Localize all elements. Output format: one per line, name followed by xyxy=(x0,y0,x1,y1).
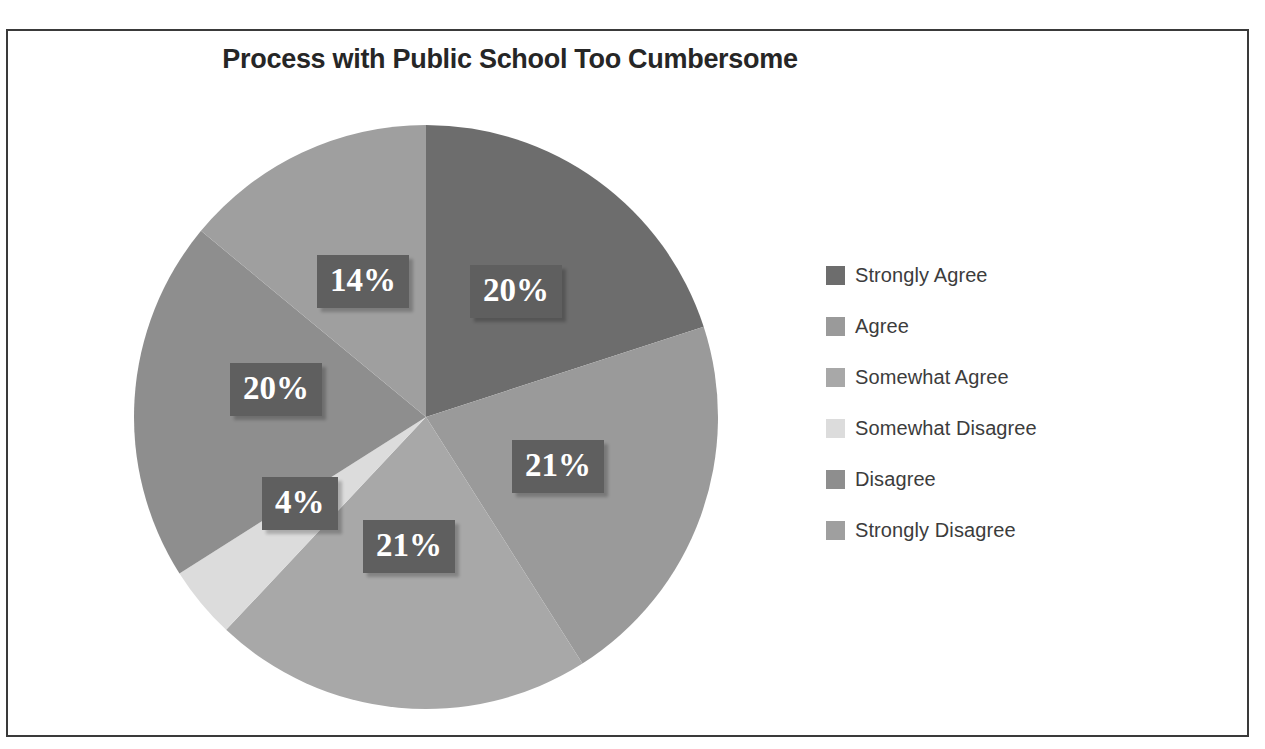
pie-slice-label: 20% xyxy=(230,363,322,416)
legend-swatch-icon xyxy=(826,368,845,387)
pie-slice-label: 20% xyxy=(470,265,562,318)
legend-item[interactable]: Strongly Agree xyxy=(826,263,1106,288)
legend-item-label: Strongly Disagree xyxy=(855,519,1016,542)
legend-item-label: Somewhat Disagree xyxy=(855,417,1037,440)
pie-slice-label: 4% xyxy=(262,477,338,530)
pie-slice-group xyxy=(134,125,718,709)
legend-item[interactable]: Somewhat Disagree xyxy=(826,416,1106,441)
legend-item-label: Somewhat Agree xyxy=(855,366,1009,389)
legend-swatch-icon xyxy=(826,317,845,336)
legend-item[interactable]: Agree xyxy=(826,314,1106,339)
pie-slice-label: 14% xyxy=(317,255,409,308)
legend-item-label: Disagree xyxy=(855,468,936,491)
pie-slice-label: 21% xyxy=(363,520,455,573)
legend-swatch-icon xyxy=(826,470,845,489)
pie-slice-label: 21% xyxy=(512,440,604,493)
legend-swatch-icon xyxy=(826,419,845,438)
legend-item[interactable]: Somewhat Agree xyxy=(826,365,1106,390)
chart-legend: Strongly AgreeAgreeSomewhat AgreeSomewha… xyxy=(826,263,1106,569)
legend-item-label: Strongly Agree xyxy=(855,264,988,287)
legend-item[interactable]: Strongly Disagree xyxy=(826,518,1106,543)
legend-swatch-icon xyxy=(826,521,845,540)
legend-item-label: Agree xyxy=(855,315,909,338)
legend-swatch-icon xyxy=(826,266,845,285)
legend-item[interactable]: Disagree xyxy=(826,467,1106,492)
